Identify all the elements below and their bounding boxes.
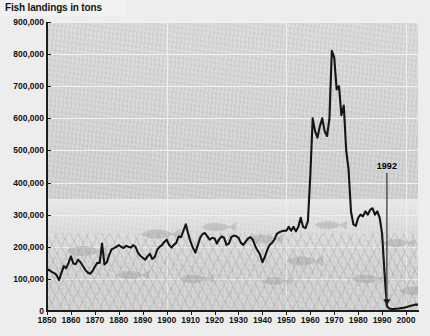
x-tick-1990 xyxy=(382,311,383,315)
x-tick-1960 xyxy=(310,311,311,315)
x-tick-1910 xyxy=(191,311,192,315)
y-tick-500000 xyxy=(47,150,51,151)
y-tick-700000 xyxy=(47,86,51,87)
y-tick-300000 xyxy=(47,215,51,216)
x-axis-tick-labels: 1850186018701880189019001910192019301940… xyxy=(0,315,430,329)
x-tick-label-1920: 1920 xyxy=(205,315,224,325)
chart-figure: Fish landings in tons 1992 0100,000200,0… xyxy=(0,0,430,336)
x-tick-1860 xyxy=(71,311,72,315)
x-tick-label-1870: 1870 xyxy=(85,315,104,325)
x-tick-1900 xyxy=(167,311,168,315)
x-tick-label-1970: 1970 xyxy=(325,315,344,325)
x-tick-label-1950: 1950 xyxy=(277,315,296,325)
y-tick-100000 xyxy=(47,279,51,280)
x-tick-label-1850: 1850 xyxy=(38,315,57,325)
annotation-label-1992: 1992 xyxy=(377,161,397,171)
x-tick-1980 xyxy=(358,311,359,315)
series-fish-landings xyxy=(47,22,418,311)
x-tick-2000 xyxy=(406,311,407,315)
y-tick-label-600000: 600,000 xyxy=(0,113,44,123)
x-tick-1940 xyxy=(262,311,263,315)
x-tick-label-1930: 1930 xyxy=(229,315,248,325)
x-tick-label-1860: 1860 xyxy=(61,315,80,325)
x-tick-label-1940: 1940 xyxy=(253,315,272,325)
x-tick-1950 xyxy=(286,311,287,315)
x-tick-label-2000: 2000 xyxy=(397,315,416,325)
y-tick-label-200000: 200,000 xyxy=(0,242,44,252)
series-line xyxy=(47,51,418,309)
x-tick-1880 xyxy=(119,311,120,315)
x-tick-label-1910: 1910 xyxy=(181,315,200,325)
x-tick-1870 xyxy=(95,311,96,315)
y-tick-label-900000: 900,000 xyxy=(0,17,44,27)
x-tick-label-1900: 1900 xyxy=(157,315,176,325)
y-tick-label-700000: 700,000 xyxy=(0,81,44,91)
x-tick-label-1980: 1980 xyxy=(349,315,368,325)
y-axis-line xyxy=(46,22,48,312)
y-axis-tick-labels: 0100,000200,000300,000400,000500,000600,… xyxy=(0,0,44,336)
x-tick-1970 xyxy=(334,311,335,315)
x-tick-label-1890: 1890 xyxy=(133,315,152,325)
y-tick-400000 xyxy=(47,183,51,184)
x-tick-1890 xyxy=(143,311,144,315)
x-tick-label-1990: 1990 xyxy=(373,315,392,325)
x-tick-1930 xyxy=(238,311,239,315)
y-tick-900000 xyxy=(47,22,51,23)
y-tick-600000 xyxy=(47,118,51,119)
y-tick-200000 xyxy=(47,247,51,248)
x-tick-1920 xyxy=(215,311,216,315)
y-tick-800000 xyxy=(47,54,51,55)
x-tick-label-1960: 1960 xyxy=(301,315,320,325)
y-tick-label-800000: 800,000 xyxy=(0,49,44,59)
x-tick-label-1880: 1880 xyxy=(109,315,128,325)
y-tick-label-500000: 500,000 xyxy=(0,145,44,155)
y-tick-label-400000: 400,000 xyxy=(0,178,44,188)
y-tick-label-100000: 100,000 xyxy=(0,274,44,284)
x-axis-line xyxy=(46,310,419,312)
x-tick-1850 xyxy=(47,311,48,315)
y-tick-label-300000: 300,000 xyxy=(0,210,44,220)
